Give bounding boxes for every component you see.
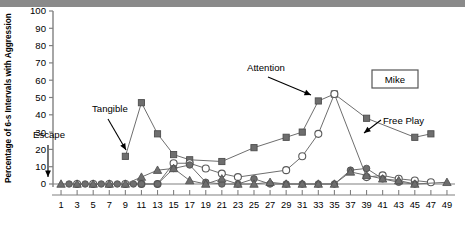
y-tick-label: 60	[35, 75, 46, 86]
x-tick-label: 29	[281, 200, 291, 210]
x-tick-label: 41	[377, 200, 387, 210]
x-tick-label: 37	[345, 200, 355, 210]
y-axis-title: Percentage of 6-s Intervals with Aggress…	[4, 13, 13, 183]
marker-square	[283, 134, 289, 140]
subject-box-label: Mike	[385, 74, 405, 85]
marker-filled-circle	[138, 181, 145, 188]
x-tick-label: 11	[137, 200, 147, 210]
y-axis-title-text: Percentage of 6-s Intervals with Aggress…	[4, 13, 13, 183]
y-tick-label: 20	[35, 144, 46, 155]
annotation-label: Tangible	[92, 103, 128, 114]
x-tick-label: 23	[233, 200, 243, 210]
marker-square	[171, 151, 177, 157]
x-tick-label: 43	[394, 200, 404, 210]
top-gray-bar	[0, 0, 465, 7]
x-tick-label: 3	[75, 200, 80, 210]
x-tick-label: 19	[201, 200, 211, 210]
marker-filled-circle	[186, 162, 193, 169]
y-tick-label: 10	[35, 161, 46, 172]
marker-square	[219, 158, 225, 164]
marker-triangle	[443, 178, 451, 185]
annotation-tangible: Tangible	[92, 103, 128, 150]
annotation-arrow-line	[268, 77, 311, 95]
marker-open-circle	[299, 153, 306, 160]
x-tick-label: 35	[329, 200, 339, 210]
annotation-arrow-head	[364, 127, 371, 133]
marker-square	[138, 100, 144, 106]
marker-square	[315, 98, 321, 104]
x-tick-label: 25	[249, 200, 259, 210]
x-tick-label: 1	[58, 200, 63, 210]
marker-square	[428, 131, 434, 137]
marker-square	[122, 153, 128, 159]
annotation-label: Escape	[33, 129, 65, 140]
marker-filled-circle	[154, 181, 161, 188]
x-tick-label: 45	[410, 200, 420, 210]
marker-square	[363, 115, 369, 121]
x-tick-label: 5	[91, 200, 96, 210]
x-axis-ticks: 1357911131517192123252729313335373941434…	[58, 190, 452, 210]
marker-open-circle	[331, 91, 338, 98]
x-tick-label: 9	[123, 200, 128, 210]
marker-square	[154, 131, 160, 137]
y-tick-label: 100	[30, 7, 46, 16]
annotation-label: Attention	[247, 62, 285, 73]
y-tick-label: 90	[35, 23, 46, 34]
x-tick-label: 27	[265, 200, 275, 210]
x-tick-label: 15	[168, 200, 178, 210]
marker-triangle	[137, 173, 145, 180]
x-tick-label: 49	[442, 200, 452, 210]
x-tick-label: 39	[361, 200, 371, 210]
chart-figure: Percentage of 6-s Intervals with Aggress…	[0, 7, 465, 228]
x-tick-label: 31	[297, 200, 307, 210]
annotation-attention: Attention	[247, 62, 311, 95]
marker-open-circle	[202, 165, 209, 172]
annotation-label: Free Play	[383, 115, 424, 126]
x-tick-label: 17	[185, 200, 195, 210]
series-tangible	[122, 91, 434, 165]
subject-box: Mike	[372, 70, 418, 88]
marker-open-circle	[427, 179, 434, 186]
marker-square	[299, 129, 305, 135]
y-tick-label: 50	[35, 92, 46, 103]
marker-open-circle	[283, 167, 290, 174]
y-tick-label: 70	[35, 57, 46, 68]
marker-square	[251, 145, 257, 151]
marker-square	[412, 134, 418, 140]
x-tick-label: 33	[313, 200, 323, 210]
annotation-free-play: Free Play	[364, 115, 424, 133]
annotation-arrow-head	[45, 171, 51, 178]
y-tick-label: 40	[35, 109, 46, 120]
y-tick-label: 80	[35, 40, 46, 51]
x-tick-label: 47	[426, 200, 436, 210]
marker-open-circle	[315, 130, 322, 137]
aggression-line-chart: Percentage of 6-s Intervals with Aggress…	[0, 7, 465, 228]
x-tick-label: 13	[152, 200, 162, 210]
x-tick-label: 7	[107, 200, 112, 210]
x-tick-label: 21	[217, 200, 227, 210]
y-axis-ticks: 0102030405060708090100	[30, 7, 53, 189]
marker-triangle	[185, 176, 193, 183]
y-tick-label: 0	[41, 178, 46, 189]
